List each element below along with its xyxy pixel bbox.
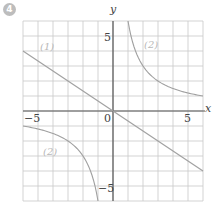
x-tick-5: 5: [184, 113, 191, 124]
origin-label: 0: [104, 113, 111, 124]
label-hyperbola-upper: (2): [144, 40, 158, 50]
hyperbola-branch-upper: [128, 21, 203, 96]
label-hyperbola-lower: (2): [43, 147, 57, 157]
x-axis-label: x: [205, 103, 211, 114]
hyperbola-branch-lower: [23, 126, 98, 201]
x-tick-neg5: −5: [24, 113, 40, 124]
y-tick-neg5: −5: [98, 183, 114, 194]
y-tick-5: 5: [104, 32, 111, 43]
y-axis-label: y: [110, 4, 116, 15]
label-line-1: (1): [40, 42, 54, 52]
